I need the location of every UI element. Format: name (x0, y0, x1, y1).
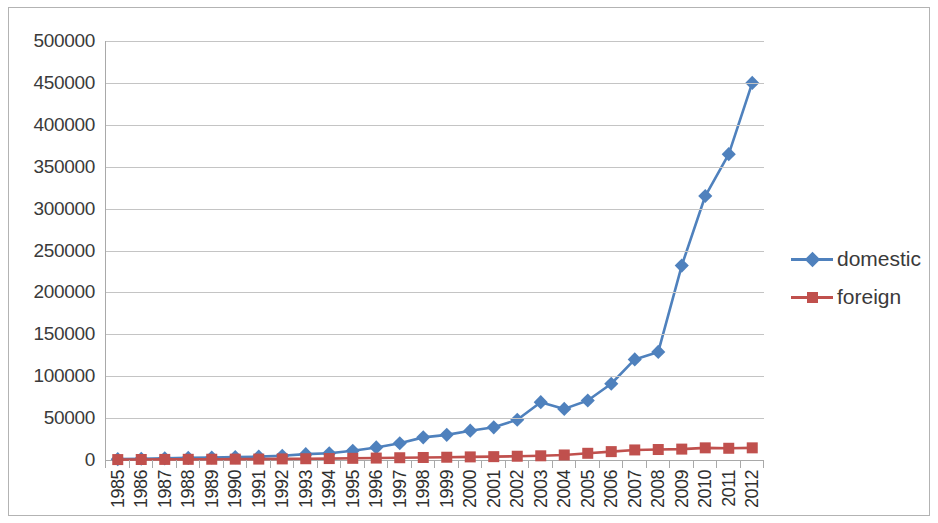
x-tick-mark (270, 460, 271, 468)
x-tick-mark (599, 460, 600, 468)
data-point-domestic-1997 (393, 436, 407, 450)
legend-swatch-square-icon (791, 290, 833, 304)
chart-frame: 5000004500004000003500003000002500002000… (8, 7, 930, 516)
y-tick-label: 300000 (33, 198, 95, 220)
gridline (106, 83, 764, 84)
x-tick-mark (481, 460, 482, 468)
x-tick-mark (763, 460, 764, 468)
data-point-domestic-1999 (440, 428, 454, 442)
data-point-domestic-2009 (675, 259, 689, 273)
series-line-domestic (118, 83, 753, 459)
data-point-domestic-2000 (463, 424, 477, 438)
x-tick-label: 1991 (249, 470, 270, 508)
y-tick-label: 100000 (33, 365, 95, 387)
x-tick-mark (129, 460, 130, 468)
gridline (106, 292, 764, 293)
x-tick-label: 1989 (202, 470, 223, 508)
chart-legend: domesticforeign (791, 240, 931, 316)
data-point-foreign-2011 (723, 443, 734, 454)
x-tick-label: 2006 (601, 470, 622, 508)
x-tick-label: 1990 (225, 470, 246, 508)
legend-marker-diamond-icon (804, 251, 820, 267)
data-point-domestic-2008 (651, 345, 665, 359)
data-point-domestic-2004 (557, 402, 571, 416)
x-tick-label: 1994 (319, 470, 340, 508)
data-point-foreign-2007 (629, 444, 640, 455)
gridline (106, 334, 764, 335)
chart-plot-wrapper: 5000004500004000003500003000002500002000… (9, 8, 929, 515)
gridline (106, 251, 764, 252)
gridline (106, 125, 764, 126)
data-point-foreign-2009 (676, 444, 687, 455)
x-tick-mark (176, 460, 177, 468)
legend-item-foreign[interactable]: foreign (791, 278, 931, 316)
x-tick-label: 1995 (343, 470, 364, 508)
y-tick-label: 0 (85, 449, 95, 471)
data-point-foreign-2012 (747, 442, 758, 453)
x-tick-label: 1996 (366, 470, 387, 508)
x-tick-label: 2001 (484, 470, 505, 508)
x-tick-label: 1985 (108, 470, 129, 508)
x-tick-label: 2002 (507, 470, 528, 508)
x-tick-label: 1993 (296, 470, 317, 508)
data-point-domestic-2001 (487, 420, 501, 434)
y-tick-label: 150000 (33, 323, 95, 345)
x-tick-label: 2010 (695, 470, 716, 508)
x-tick-mark (693, 460, 694, 468)
x-tick-mark (434, 460, 435, 468)
y-tick-label: 350000 (33, 156, 95, 178)
x-tick-label: 1986 (131, 470, 152, 508)
x-tick-mark (317, 460, 318, 468)
y-tick-label: 500000 (33, 30, 95, 52)
data-point-foreign-2006 (606, 446, 617, 457)
legend-swatch-diamond-icon (791, 252, 833, 266)
gridline (106, 167, 764, 168)
x-tick-mark (152, 460, 153, 468)
x-tick-label: 1998 (413, 470, 434, 508)
x-tick-label: 1987 (155, 470, 176, 508)
x-tick-label: 2004 (554, 470, 575, 508)
x-tick-mark (411, 460, 412, 468)
x-tick-mark (528, 460, 529, 468)
gridline (106, 209, 764, 210)
x-tick-label: 1997 (390, 470, 411, 508)
x-tick-mark (669, 460, 670, 468)
x-tick-mark (387, 460, 388, 468)
x-tick-mark (199, 460, 200, 468)
x-tick-mark (740, 460, 741, 468)
y-tick-label: 450000 (33, 72, 95, 94)
legend-item-domestic[interactable]: domestic (791, 240, 931, 278)
legend-label: foreign (837, 285, 901, 309)
x-tick-label: 2009 (672, 470, 693, 508)
y-tick-label: 250000 (33, 240, 95, 262)
x-tick-label: 1988 (178, 470, 199, 508)
x-tick-mark (622, 460, 623, 468)
x-tick-label: 2012 (742, 470, 763, 508)
x-tick-mark (716, 460, 717, 468)
y-tick-label: 400000 (33, 114, 95, 136)
x-tick-label: 2005 (578, 470, 599, 508)
legend-marker-square-icon (807, 292, 818, 303)
data-point-foreign-2005 (582, 448, 593, 459)
x-tick-mark (246, 460, 247, 468)
x-tick-label: 2007 (625, 470, 646, 508)
y-axis: 5000004500004000003500003000002500002000… (17, 28, 95, 474)
x-tick-label: 2000 (460, 470, 481, 508)
data-point-domestic-1996 (369, 440, 383, 454)
x-tick-mark (552, 460, 553, 468)
x-tick-mark (458, 460, 459, 468)
y-tick-label: 50000 (44, 407, 95, 429)
data-point-foreign-2008 (653, 444, 664, 455)
data-point-domestic-2010 (698, 189, 712, 203)
x-tick-mark (505, 460, 506, 468)
x-tick-mark (223, 460, 224, 468)
x-tick-label: 1992 (272, 470, 293, 508)
gridline (106, 41, 764, 42)
data-point-foreign-2004 (559, 449, 570, 460)
x-tick-mark (293, 460, 294, 468)
x-tick-mark (340, 460, 341, 468)
x-tick-label: 2008 (648, 470, 669, 508)
x-tick-label: 2003 (531, 470, 552, 508)
data-point-foreign-2010 (700, 442, 711, 453)
legend-label: domestic (837, 247, 921, 271)
